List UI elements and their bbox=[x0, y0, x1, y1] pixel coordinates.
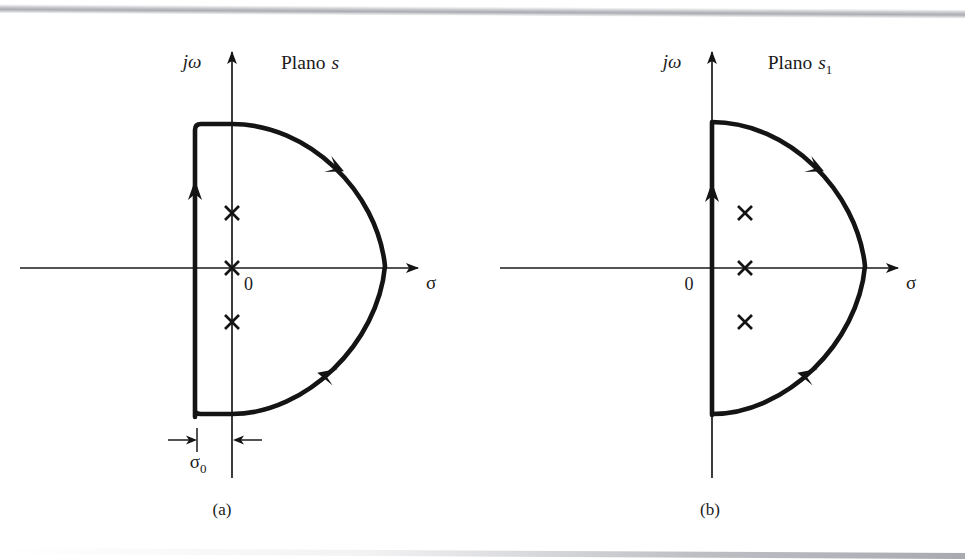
real-axis-label-a: σ bbox=[426, 272, 436, 293]
contour-direction-arrows-b bbox=[705, 156, 828, 386]
panel-caption-a: (a) bbox=[213, 500, 232, 519]
panel-title-prefix-b: Plano bbox=[768, 52, 812, 73]
panel-caption-b: (b) bbox=[700, 500, 720, 519]
sigma0-label: σ0 bbox=[190, 451, 207, 476]
sigma0-dimension-a bbox=[168, 428, 262, 452]
bromwich-contour-a bbox=[195, 124, 385, 417]
panel-plano-s1: jω σ 0 Planos1 (b) bbox=[500, 51, 916, 519]
sigma0-base: σ bbox=[190, 451, 200, 472]
contour-direction-arrows-a bbox=[188, 156, 348, 386]
pole-marker bbox=[738, 206, 752, 220]
panel-title-symbol-b: s bbox=[818, 52, 826, 73]
origin-label-a: 0 bbox=[244, 274, 253, 294]
panel-title-b: Planos1 bbox=[768, 52, 833, 77]
imaginary-axis-label-b: jω bbox=[660, 51, 682, 72]
sigma0-subscript: 0 bbox=[200, 461, 207, 476]
pole-marker bbox=[738, 315, 752, 329]
imaginary-axis-label-a: jω bbox=[180, 51, 202, 72]
panel-title-subscript-b: 1 bbox=[826, 62, 833, 77]
panel-title-prefix-a: Plano bbox=[281, 52, 325, 73]
panel-title-symbol-a: s bbox=[331, 52, 339, 73]
real-axis-label-b: σ bbox=[906, 272, 916, 293]
panel-title-a: Planos bbox=[281, 52, 339, 73]
origin-label-b: 0 bbox=[685, 274, 694, 294]
panel-plano-s: jω σ 0 σ0 Planos (a) bbox=[20, 51, 436, 519]
